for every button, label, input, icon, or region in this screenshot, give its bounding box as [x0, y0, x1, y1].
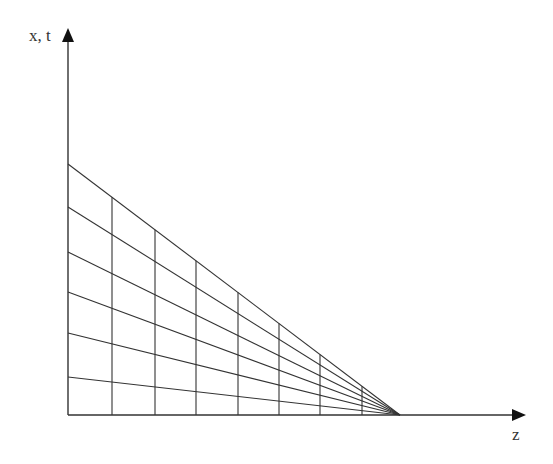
horizontal-axis-arrow-icon	[512, 409, 526, 421]
vertical-axis-label: x, t	[29, 27, 51, 44]
horizontal-axis-label: z	[512, 426, 520, 443]
converging-line	[68, 164, 400, 415]
axes	[62, 28, 526, 421]
grid-lines	[68, 164, 400, 415]
perspective-grid-diagram	[0, 0, 553, 464]
converging-line	[68, 333, 400, 415]
converging-line	[68, 252, 400, 415]
vertical-axis-arrow-icon	[62, 28, 74, 42]
